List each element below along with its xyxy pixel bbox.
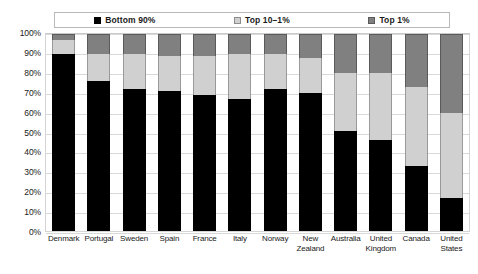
x-axis-category-label: United Kingdom xyxy=(363,234,399,272)
bar-segment-bottom-90[interactable] xyxy=(369,140,392,231)
chart-legend: Bottom 90% Top 10–1% Top 1% xyxy=(54,12,450,28)
x-axis-category-label: Italy xyxy=(222,234,258,272)
legend-swatch-top-1 xyxy=(368,17,375,24)
legend-swatch-bottom-90 xyxy=(94,17,101,24)
bar-column[interactable] xyxy=(264,34,287,231)
bar-segment-top-10-1[interactable] xyxy=(87,54,110,82)
stacked-bar-chart: Bottom 90% Top 10–1% Top 1% 0%10%20%30%4… xyxy=(0,0,478,274)
bar-segment-top-1[interactable] xyxy=(228,34,251,54)
bar-segment-top-10-1[interactable] xyxy=(193,56,216,95)
y-axis-tick-label: 90% xyxy=(0,48,41,58)
bar-segment-top-1[interactable] xyxy=(440,34,463,113)
x-axis: DenmarkPortugalSwedenSpainFranceItalyNor… xyxy=(46,234,469,272)
bar-segment-top-1[interactable] xyxy=(405,34,428,87)
bar-segment-top-10-1[interactable] xyxy=(299,58,322,93)
bar-segment-bottom-90[interactable] xyxy=(87,81,110,231)
bar-column[interactable] xyxy=(405,34,428,231)
x-axis-category-label: Norway xyxy=(257,234,293,272)
x-axis-category-label: Canada xyxy=(398,234,434,272)
bar-column[interactable] xyxy=(158,34,181,231)
y-axis-tick-label: 80% xyxy=(0,68,41,78)
bar-segment-top-10-1[interactable] xyxy=(228,54,251,99)
bar-segment-bottom-90[interactable] xyxy=(52,54,75,231)
bar-column[interactable] xyxy=(369,34,392,231)
bar-segment-top-1[interactable] xyxy=(299,34,322,58)
bar-segment-bottom-90[interactable] xyxy=(158,91,181,231)
y-axis-tick-label: 40% xyxy=(0,147,41,157)
bar-column[interactable] xyxy=(123,34,146,231)
y-axis-tick-label: 60% xyxy=(0,108,41,118)
x-axis-category-label: Spain xyxy=(151,234,187,272)
x-axis-category-label: Denmark xyxy=(46,234,82,272)
x-axis-category-label: New Zealand xyxy=(292,234,328,272)
y-axis-tick-label: 20% xyxy=(0,187,41,197)
bar-segment-top-10-1[interactable] xyxy=(158,56,181,91)
bar-segment-bottom-90[interactable] xyxy=(193,95,216,231)
y-axis-tick-label: 50% xyxy=(0,128,41,138)
bar-segment-bottom-90[interactable] xyxy=(440,198,463,232)
bar-segment-top-10-1[interactable] xyxy=(369,73,392,140)
bar-segment-top-10-1[interactable] xyxy=(405,87,428,166)
bar-segment-top-10-1[interactable] xyxy=(123,54,146,89)
bar-column[interactable] xyxy=(440,34,463,231)
bar-segment-top-1[interactable] xyxy=(264,34,287,54)
y-axis-tick-label: 0% xyxy=(0,227,41,237)
bar-segment-top-10-1[interactable] xyxy=(52,40,75,54)
x-axis-category-label: Australia xyxy=(328,234,364,272)
bar-group xyxy=(46,34,469,231)
bar-segment-top-10-1[interactable] xyxy=(440,113,463,198)
bar-segment-top-10-1[interactable] xyxy=(334,73,357,130)
bar-segment-bottom-90[interactable] xyxy=(299,93,322,231)
bar-segment-top-1[interactable] xyxy=(123,34,146,54)
bar-segment-top-1[interactable] xyxy=(369,34,392,73)
y-axis-tick-label: 10% xyxy=(0,207,41,217)
y-axis-tick-label: 100% xyxy=(0,28,41,38)
bar-segment-top-1[interactable] xyxy=(334,34,357,73)
bar-column[interactable] xyxy=(299,34,322,231)
bar-column[interactable] xyxy=(87,34,110,231)
bar-segment-bottom-90[interactable] xyxy=(334,131,357,231)
legend-label-bottom-90: Bottom 90% xyxy=(105,15,155,25)
y-axis: 0%10%20%30%40%50%60%70%80%90%100% xyxy=(0,33,41,232)
bar-segment-bottom-90[interactable] xyxy=(228,99,251,231)
y-axis-tick-label: 30% xyxy=(0,167,41,177)
legend-item-bottom-90: Bottom 90% xyxy=(94,15,155,25)
bar-segment-top-1[interactable] xyxy=(193,34,216,56)
bar-segment-top-1[interactable] xyxy=(87,34,110,54)
legend-label-top-10-1: Top 10–1% xyxy=(245,15,290,25)
legend-item-top-10-1: Top 10–1% xyxy=(234,15,290,25)
bar-column[interactable] xyxy=(193,34,216,231)
legend-label-top-1: Top 1% xyxy=(379,15,409,25)
x-axis-category-label: United States xyxy=(433,234,469,272)
y-axis-tick-label: 70% xyxy=(0,88,41,98)
bar-segment-top-1[interactable] xyxy=(158,34,181,56)
bar-segment-bottom-90[interactable] xyxy=(264,89,287,231)
bar-column[interactable] xyxy=(334,34,357,231)
bar-column[interactable] xyxy=(52,34,75,231)
legend-item-top-1: Top 1% xyxy=(368,15,409,25)
x-axis-category-label: Portugal xyxy=(81,234,117,272)
bar-segment-top-10-1[interactable] xyxy=(264,54,287,89)
legend-swatch-top-10-1 xyxy=(234,17,241,24)
bar-segment-bottom-90[interactable] xyxy=(123,89,146,231)
x-axis-category-label: France xyxy=(187,234,223,272)
bar-column[interactable] xyxy=(228,34,251,231)
x-axis-category-label: Sweden xyxy=(116,234,152,272)
bar-segment-bottom-90[interactable] xyxy=(405,166,428,231)
